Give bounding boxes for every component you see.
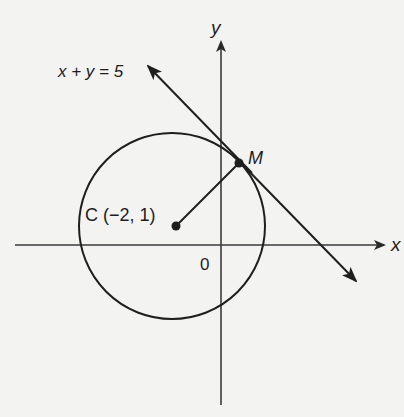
x-axis-label: x (390, 234, 402, 255)
y-axis-label: y (209, 17, 222, 38)
tangent-point-label: M (248, 148, 263, 168)
center-point-label: C (−2, 1) (85, 205, 156, 225)
line-equation-label: x + y = 5 (57, 62, 124, 81)
diagram-canvas: y x 0 x + y = 5 M C (−2, 1) (0, 0, 404, 417)
center-point-c (172, 222, 181, 231)
origin-label: 0 (200, 255, 209, 274)
tangent-line-lower (238, 160, 356, 281)
radius-segment-cm (176, 163, 239, 226)
tangent-line (148, 66, 252, 173)
tangent-point-m (235, 159, 244, 168)
